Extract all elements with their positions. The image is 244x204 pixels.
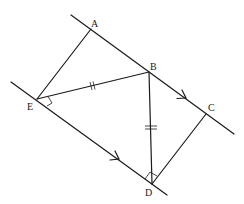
lower-parallel-line [11,82,167,195]
label-C: C [208,102,215,113]
label-A: A [91,18,99,29]
label-B: B [150,61,157,72]
parallel-arrow-upper-icon [177,90,186,99]
upper-parallel-line [71,15,234,134]
segment-EB [37,72,149,99]
label-E: E [27,101,33,112]
geometry-diagram: A B C D E [0,0,244,204]
segment-DC [152,114,206,184]
segment-BD [149,72,152,184]
angle-mark-D-icon [145,172,157,179]
label-D: D [145,187,152,198]
angle-mark-E-icon [47,97,52,107]
parallel-arrow-lower-icon [110,151,119,160]
